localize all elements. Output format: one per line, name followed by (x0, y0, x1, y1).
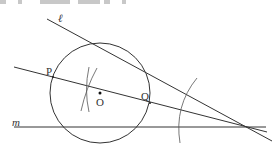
geometry-diagram: ℓ m P Q O (0, 0, 279, 157)
construction-arc (87, 67, 90, 112)
point-q (149, 102, 151, 104)
line-l (47, 19, 272, 141)
label-q: Q (141, 90, 149, 102)
label-l: ℓ (58, 12, 63, 24)
label-o: O (96, 96, 104, 108)
label-p: P (46, 65, 52, 77)
construction-arc (81, 68, 97, 111)
center-point-o (99, 92, 102, 95)
label-m: m (12, 116, 20, 128)
point-p (52, 76, 54, 78)
